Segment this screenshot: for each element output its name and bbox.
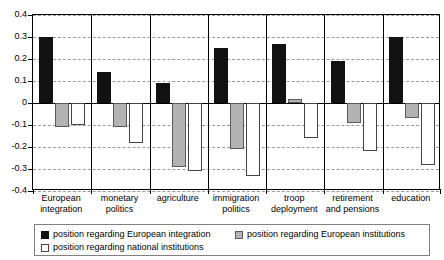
chart-legend: position regarding European integrationp…: [34, 224, 430, 256]
bar-black-0: [39, 37, 53, 103]
legend-label: position regarding European integration: [53, 229, 211, 240]
gridline: [33, 15, 439, 16]
x-axis-label-line: integration: [32, 204, 90, 215]
bar-white-2: [188, 103, 202, 171]
x-axis-label-line: politics: [207, 204, 265, 215]
y-axis-tick-label: -0.1: [1, 120, 27, 129]
legend-swatch-gray-icon: [235, 231, 243, 239]
bar-gray-1: [113, 103, 127, 127]
bar-gray-4: [288, 99, 302, 103]
y-axis-tick: [28, 147, 33, 148]
x-axis-label-line: immigration: [207, 193, 265, 204]
x-axis-label-1: monetarypolitics: [90, 193, 148, 215]
chart-figure: 0.40.30.20.10-0.1-0.2-0.3-0.4 Europeanin…: [0, 0, 444, 260]
plot-area: [32, 14, 440, 190]
x-axis-label-line: retirement: [323, 193, 381, 204]
bar-white-6: [421, 103, 435, 165]
x-axis-category-labels: Europeanintegrationmonetarypoliticsagric…: [32, 193, 440, 221]
bar-gray-2: [172, 103, 186, 167]
group-separator: [324, 15, 325, 189]
group-separator: [91, 15, 92, 189]
legend-item-gray[interactable]: position regarding European institutions: [235, 229, 405, 240]
bar-black-4: [272, 44, 286, 103]
x-axis-tick: [440, 189, 441, 194]
group-separator: [150, 15, 151, 189]
legend-item-white[interactable]: position regarding national institutions: [41, 242, 204, 253]
y-axis-tick-label: 0.2: [1, 54, 27, 63]
x-axis-label-3: immigrationpolitics: [207, 193, 265, 215]
x-axis-label-line: agriculture: [149, 193, 207, 204]
x-axis-label-2: agriculture: [149, 193, 207, 204]
x-axis-label-line: troop: [265, 193, 323, 204]
x-axis-label-line: and pensions: [323, 204, 381, 215]
gridline: [33, 59, 439, 60]
y-axis-tick-label: -0.2: [1, 142, 27, 151]
bar-white-1: [129, 103, 143, 143]
y-axis-tick-label: 0.4: [1, 10, 27, 19]
bar-black-3: [214, 48, 228, 103]
bar-gray-0: [55, 103, 69, 127]
gridline: [33, 169, 439, 170]
bar-black-5: [331, 61, 345, 103]
x-axis-label-line: politics: [90, 204, 148, 215]
x-axis-label-5: retirementand pensions: [323, 193, 381, 215]
legend-swatch-white-icon: [41, 244, 49, 252]
y-axis-tick: [28, 59, 33, 60]
bar-gray-6: [405, 103, 419, 118]
gridline: [33, 81, 439, 82]
y-axis-tick-label: -0.3: [1, 164, 27, 173]
group-separator: [383, 15, 384, 189]
x-axis-label-line: education: [382, 193, 440, 204]
y-axis-tick: [28, 15, 33, 16]
y-axis-tick-label: -0.4: [1, 186, 27, 195]
bar-white-3: [246, 103, 260, 176]
bar-white-0: [71, 103, 85, 125]
group-separator: [266, 15, 267, 189]
bar-black-1: [97, 72, 111, 103]
x-axis-label-line: monetary: [90, 193, 148, 204]
y-axis-tick-label: 0: [1, 98, 27, 107]
gridline: [33, 191, 439, 192]
group-separator: [208, 15, 209, 189]
bar-black-6: [389, 37, 403, 103]
legend-label: position regarding national institutions: [53, 242, 204, 253]
x-axis-label-6: education: [382, 193, 440, 204]
x-axis-label-0: Europeanintegration: [32, 193, 90, 215]
bar-gray-5: [347, 103, 361, 123]
bar-white-4: [304, 103, 318, 138]
gridline: [33, 37, 439, 38]
y-axis-tick-labels: 0.40.30.20.10-0.1-0.2-0.3-0.4: [0, 14, 27, 190]
y-axis-tick: [28, 125, 33, 126]
y-axis-tick: [28, 169, 33, 170]
bar-gray-3: [230, 103, 244, 149]
legend-swatch-black-icon: [41, 231, 49, 239]
x-axis-label-line: deployment: [265, 204, 323, 215]
y-axis-tick-label: 0.1: [1, 76, 27, 85]
bar-white-5: [363, 103, 377, 151]
x-axis-label-line: European: [32, 193, 90, 204]
x-axis-label-4: troopdeployment: [265, 193, 323, 215]
y-axis-tick: [28, 81, 33, 82]
y-axis-tick: [28, 37, 33, 38]
legend-item-black[interactable]: position regarding European integration: [41, 229, 211, 240]
legend-label: position regarding European institutions: [247, 229, 405, 240]
y-axis-tick-label: 0.3: [1, 32, 27, 41]
bar-black-2: [156, 83, 170, 103]
